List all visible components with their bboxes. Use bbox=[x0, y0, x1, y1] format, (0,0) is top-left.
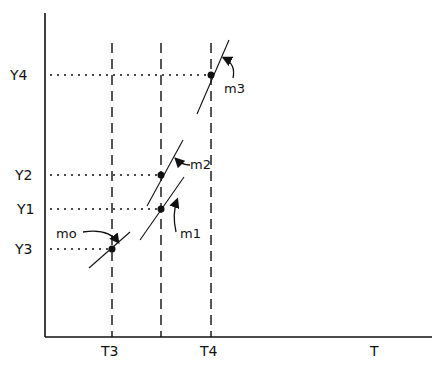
slope-label-m0: mo bbox=[56, 226, 77, 241]
y-label-y2: Y2 bbox=[14, 167, 32, 183]
y-label-y3: Y3 bbox=[14, 241, 32, 257]
y-label-y4: Y4 bbox=[9, 67, 28, 83]
diagram-canvas: Y4 Y2 Y1 Y3 T3 T4 T m3 m2 m1 mo bbox=[0, 0, 444, 367]
arrow-m3 bbox=[224, 58, 234, 78]
tangent-m2 bbox=[147, 140, 183, 206]
arrow-m1 bbox=[174, 200, 177, 232]
x-label-t3: T3 bbox=[100, 343, 118, 359]
arrow-m2 bbox=[176, 159, 190, 165]
slope-label-m3: m3 bbox=[224, 81, 245, 96]
point-y2 bbox=[158, 172, 165, 179]
slope-label-m2: m2 bbox=[190, 157, 211, 172]
x-axis-label-t: T bbox=[369, 343, 379, 359]
x-label-t4: T4 bbox=[199, 343, 218, 359]
point-y4 bbox=[208, 72, 215, 79]
arrow-m0 bbox=[83, 231, 118, 242]
point-y3 bbox=[109, 246, 116, 253]
point-y1 bbox=[158, 206, 165, 213]
slope-label-m1: m1 bbox=[180, 226, 201, 241]
y-label-y1: Y1 bbox=[16, 201, 34, 217]
